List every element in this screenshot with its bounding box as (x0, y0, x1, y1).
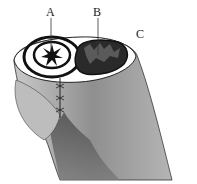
label-c: C (136, 28, 144, 40)
diagram-canvas (0, 0, 197, 184)
label-b: B (93, 6, 101, 18)
label-a: A (46, 6, 55, 18)
